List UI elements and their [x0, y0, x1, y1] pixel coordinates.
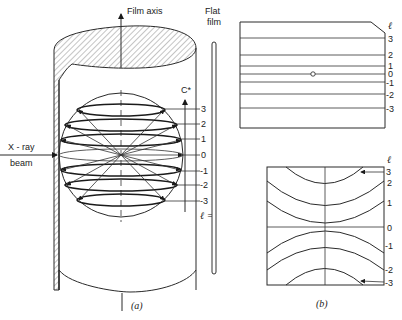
svg-text:3: 3	[388, 34, 393, 44]
xray-label-line2: beam	[10, 158, 33, 168]
svg-text:ℓ =: ℓ =	[200, 210, 213, 221]
caption-b: (b)	[316, 298, 328, 310]
svg-text:2: 2	[388, 50, 393, 60]
layer-label-column: 3 2 1 0 -1 -2 -3 ℓ =	[200, 104, 213, 221]
svg-text:-2: -2	[200, 180, 208, 190]
svg-text:-3: -3	[386, 104, 394, 114]
panel-b-top-labels: ℓ 3 2 1 0 -1 -2 -3	[386, 20, 394, 114]
svg-text:3: 3	[201, 104, 206, 114]
c-star-label: C*	[181, 85, 191, 95]
diagram-canvas: Film axis X - ray beam	[0, 0, 402, 320]
svg-text:-1: -1	[385, 241, 393, 251]
panel-b-top-film	[240, 22, 385, 128]
film-axis-label: Film axis	[127, 6, 163, 16]
caption-a: (a)	[131, 300, 143, 312]
diffracted-rays	[62, 110, 182, 200]
svg-text:3: 3	[386, 167, 391, 177]
svg-text:-1: -1	[200, 166, 208, 176]
beam-center-marker	[311, 72, 315, 76]
xray-label-line1: X - ray	[8, 142, 35, 152]
svg-text:ℓ: ℓ	[388, 20, 392, 31]
cylinder-bottom-arc	[59, 270, 196, 292]
pointer-arrow-bottom	[361, 281, 384, 282]
svg-text:2: 2	[387, 178, 392, 188]
svg-text:0: 0	[387, 223, 392, 233]
svg-text:-2: -2	[385, 265, 393, 275]
svg-text:1: 1	[387, 198, 392, 208]
panel-b-bottom-film	[267, 167, 384, 285]
svg-text:0: 0	[201, 150, 206, 160]
panel-b-bottom-labels: ℓ 3 2 1 0 -1 -2 -3	[385, 154, 393, 288]
svg-text:-3: -3	[385, 278, 393, 288]
svg-text:-2: -2	[386, 90, 394, 100]
svg-text:2: 2	[201, 119, 206, 129]
svg-text:-1: -1	[386, 78, 394, 88]
flat-film-label-1: Flat	[205, 6, 221, 16]
flat-film-label-2: film	[207, 17, 221, 27]
svg-text:-3: -3	[200, 196, 208, 206]
svg-text:1: 1	[201, 134, 206, 144]
svg-text:ℓ: ℓ	[387, 154, 391, 165]
flat-film	[212, 42, 216, 274]
